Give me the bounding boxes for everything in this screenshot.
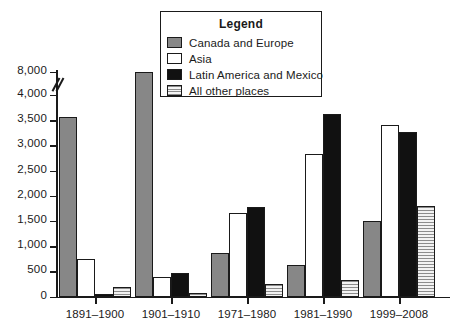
bar-canada-1: [135, 72, 153, 297]
y-tick-mark: [50, 72, 56, 74]
y-tick-mark: [50, 171, 56, 173]
y-tick-label: 2,500: [17, 163, 47, 175]
legend-item-other: All other places: [167, 83, 321, 98]
legend-item-asia: Asia: [167, 51, 321, 66]
bar-other-4: [417, 206, 435, 297]
y-tick-label: 1,500: [17, 213, 47, 225]
x-tick-label: 1981–1990: [283, 308, 363, 320]
bar-canada-0: [59, 117, 77, 297]
legend-box: Legend Canada and EuropeAsiaLatin Americ…: [160, 11, 322, 97]
x-tick-mark: [399, 297, 401, 304]
y-tick-label: 4,000: [17, 87, 47, 99]
legend-item-canada: Canada and Europe: [167, 35, 321, 50]
bar-other-2: [265, 284, 283, 297]
y-tick-mark: [50, 271, 56, 273]
y-tick-mark: [50, 95, 56, 97]
bar-latin-3: [323, 114, 341, 296]
legend-title: Legend: [161, 17, 321, 31]
y-tick-mark: [50, 145, 56, 147]
bar-other-0: [113, 287, 131, 296]
legend-item-label: Asia: [189, 53, 212, 65]
y-tick-label: 3,000: [17, 137, 47, 149]
bar-latin-0: [95, 294, 113, 297]
y-tick-label: 1,000: [17, 238, 47, 250]
y-tick-label: 3,500: [17, 112, 47, 124]
y-tick-label: 8,000: [17, 64, 47, 76]
x-tick-mark: [323, 297, 325, 304]
bar-canada-3: [287, 265, 305, 296]
y-axis-line: [56, 70, 58, 298]
bar-latin-1: [171, 273, 189, 296]
x-tick-label: 1891–1900: [55, 308, 135, 320]
legend-item-label: Latin America and Mexico: [189, 69, 323, 81]
bar-asia-0: [77, 259, 95, 297]
legend-swatch-icon: [167, 53, 182, 64]
x-tick-mark: [247, 297, 249, 304]
y-tick-label: 0: [40, 289, 47, 301]
bar-asia-4: [381, 125, 399, 296]
y-tick-label: 500: [27, 263, 47, 275]
bar-asia-1: [153, 277, 171, 297]
bar-canada-4: [363, 221, 381, 296]
bar-latin-2: [247, 207, 265, 297]
bar-chart: 05001,0001,5002,0002,5003,0003,5004,0008…: [0, 0, 451, 335]
legend-entries: Canada and EuropeAsiaLatin America and M…: [161, 35, 321, 98]
y-tick-mark: [50, 297, 56, 299]
y-tick-mark: [50, 120, 56, 122]
x-tick-label: 1971–1980: [207, 308, 287, 320]
bar-asia-2: [229, 213, 247, 296]
legend-item-latin: Latin America and Mexico: [167, 67, 321, 82]
bar-canada-2: [211, 253, 229, 297]
y-tick-mark: [50, 246, 56, 248]
x-tick-mark: [95, 297, 97, 304]
legend-swatch-icon: [167, 37, 182, 48]
axis-break-icon: [50, 76, 66, 94]
bar-asia-3: [305, 154, 323, 296]
x-axis-line: [56, 297, 450, 299]
bar-latin-4: [399, 132, 417, 297]
x-tick-mark: [171, 297, 173, 304]
legend-item-label: All other places: [189, 85, 269, 97]
x-tick-label: 1901–1910: [131, 308, 211, 320]
y-tick-mark: [50, 221, 56, 223]
legend-swatch-icon: [167, 85, 182, 96]
legend-swatch-icon: [167, 69, 182, 80]
y-tick-label: 2,000: [17, 188, 47, 200]
legend-item-label: Canada and Europe: [189, 37, 294, 49]
y-tick-mark: [50, 196, 56, 198]
bar-other-1: [189, 293, 207, 296]
bar-other-3: [341, 280, 359, 297]
x-tick-label: 1999–2008: [359, 308, 439, 320]
